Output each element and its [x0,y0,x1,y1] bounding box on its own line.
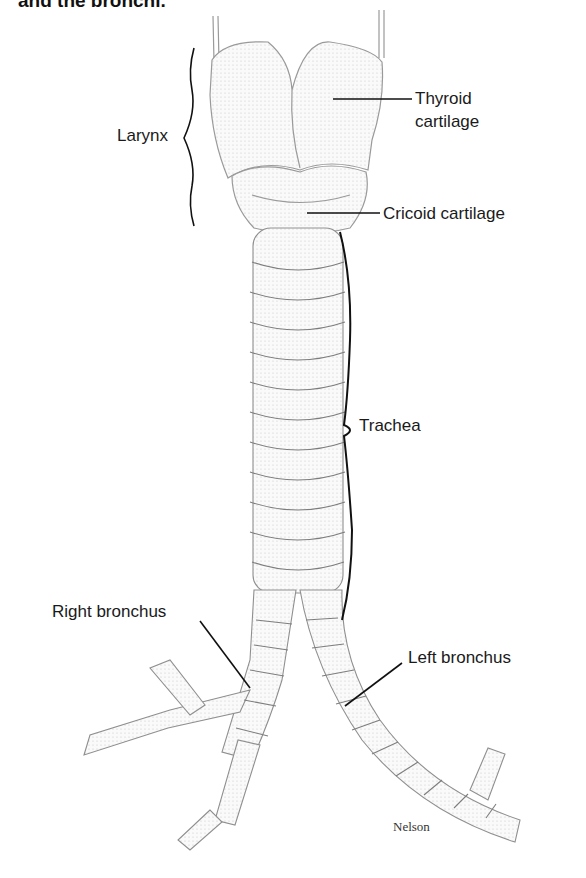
trachea-drawing [250,228,345,593]
label-right-bronchus: Right bronchus [52,601,166,623]
label-trachea: Trachea [359,415,421,437]
bronchi-drawing [84,590,520,850]
artist-credit: Nelson [393,819,430,835]
cricoid-cartilage-drawing [232,166,367,234]
label-thyroid-line2: cartilage [415,111,479,133]
larynx-brace [184,48,194,226]
label-left-bronchus: Left bronchus [408,647,511,669]
label-cricoid: Cricoid cartilage [383,203,505,225]
thyroid-cartilage-drawing [210,10,384,178]
anatomy-illustration [0,0,586,878]
right-bronchus-leader [200,621,250,688]
label-thyroid-line1: Thyroid [415,88,472,110]
label-larynx: Larynx [117,125,168,147]
